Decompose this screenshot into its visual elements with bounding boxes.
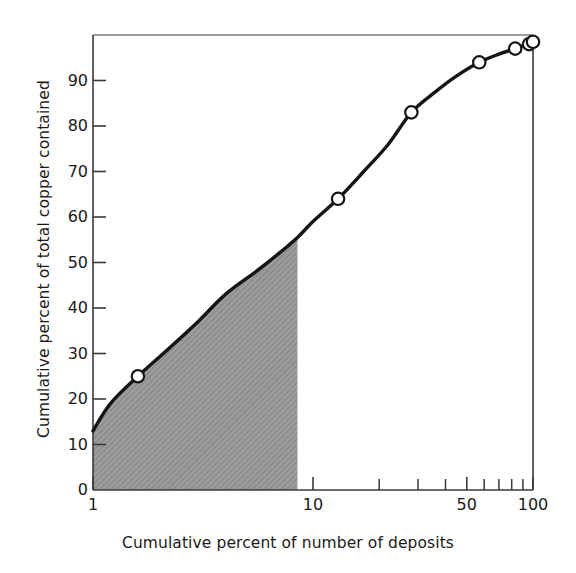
plot-canvas	[0, 0, 576, 573]
data-point-marker	[132, 370, 144, 382]
data-point-marker	[405, 106, 417, 118]
data-point-marker	[332, 193, 344, 205]
data-point-marker	[509, 42, 521, 54]
data-point-marker	[527, 36, 539, 48]
chart-figure: Cumulative percent of total copper conta…	[0, 0, 576, 573]
data-point-marker	[473, 56, 485, 68]
shaded-region	[93, 237, 297, 490]
